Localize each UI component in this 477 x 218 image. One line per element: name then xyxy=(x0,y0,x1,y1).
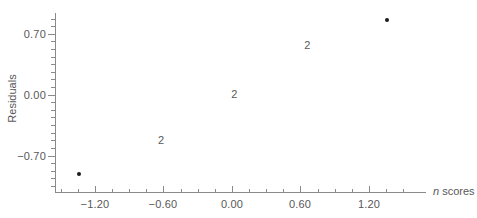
y-axis-minor-tick xyxy=(51,163,55,164)
x-axis-minor-tick xyxy=(112,189,113,193)
y-axis-minor-tick xyxy=(51,186,55,187)
x-axis-minor-tick xyxy=(283,189,284,193)
x-axis-minor-tick xyxy=(352,189,353,193)
x-axis-tick-label: 1.20 xyxy=(339,199,399,210)
x-axis-major-tick xyxy=(163,186,164,193)
x-axis-minor-tick xyxy=(181,189,182,193)
x-axis-minor-tick xyxy=(335,189,336,193)
residual-scatter-plot: 0.700.00−0.70 −1.20−0.600.000.601.20 222… xyxy=(0,0,477,218)
x-axis-tick-label: 0.60 xyxy=(270,199,330,210)
y-axis-minor-tick xyxy=(51,102,55,103)
x-axis-minor-tick xyxy=(146,189,147,193)
x-axis-tick-label: −1.20 xyxy=(65,199,125,210)
x-axis-minor-tick xyxy=(318,189,319,193)
y-axis-minor-tick xyxy=(51,140,55,141)
y-axis-minor-tick xyxy=(51,117,55,118)
data-point-count-label: 2 xyxy=(297,40,317,51)
x-axis-major-tick xyxy=(95,186,96,193)
y-axis-minor-tick xyxy=(51,49,55,50)
x-axis-line xyxy=(55,192,426,193)
x-axis-minor-tick xyxy=(386,189,387,193)
x-axis-minor-tick xyxy=(198,189,199,193)
x-axis-title: n scores xyxy=(433,186,475,197)
y-axis-minor-tick xyxy=(51,26,55,27)
data-point xyxy=(385,18,389,22)
x-axis-minor-tick xyxy=(78,189,79,193)
y-axis-title: Residuals xyxy=(7,54,18,144)
y-axis-minor-tick xyxy=(51,133,55,134)
y-axis-minor-tick xyxy=(51,125,55,126)
y-axis-minor-tick xyxy=(51,178,55,179)
y-axis-tick-label: −0.70 xyxy=(0,151,46,162)
x-axis-title-variable: n xyxy=(433,185,439,197)
y-axis-tick-label: 0.70 xyxy=(0,29,46,40)
x-axis-minor-tick xyxy=(215,189,216,193)
data-point xyxy=(77,172,81,176)
x-axis-minor-tick xyxy=(249,189,250,193)
y-axis-minor-tick xyxy=(51,64,55,65)
y-axis-minor-tick xyxy=(51,87,55,88)
x-axis-major-tick xyxy=(369,186,370,193)
x-axis-minor-tick xyxy=(266,189,267,193)
x-axis-major-tick xyxy=(300,186,301,193)
x-axis-tick-label: −0.60 xyxy=(133,199,193,210)
y-axis-minor-tick xyxy=(51,41,55,42)
x-axis-title-word: scores xyxy=(442,185,474,197)
x-axis-major-tick xyxy=(232,186,233,193)
x-axis-tick-label: 0.00 xyxy=(202,199,262,210)
y-axis-major-tick xyxy=(48,95,55,96)
y-axis-minor-tick xyxy=(51,57,55,58)
y-axis-minor-tick xyxy=(51,79,55,80)
x-axis-minor-tick xyxy=(129,189,130,193)
y-axis-minor-tick xyxy=(51,171,55,172)
y-axis-minor-tick xyxy=(51,19,55,20)
x-axis-minor-tick xyxy=(61,189,62,193)
y-axis-major-tick xyxy=(48,34,55,35)
data-point-count-label: 2 xyxy=(224,89,244,100)
x-axis-minor-tick xyxy=(403,189,404,193)
y-axis-line xyxy=(55,13,56,193)
y-axis-minor-tick xyxy=(51,110,55,111)
data-point-count-label: 2 xyxy=(151,135,171,146)
y-axis-minor-tick xyxy=(51,72,55,73)
y-axis-minor-tick xyxy=(51,148,55,149)
y-axis-major-tick xyxy=(48,156,55,157)
